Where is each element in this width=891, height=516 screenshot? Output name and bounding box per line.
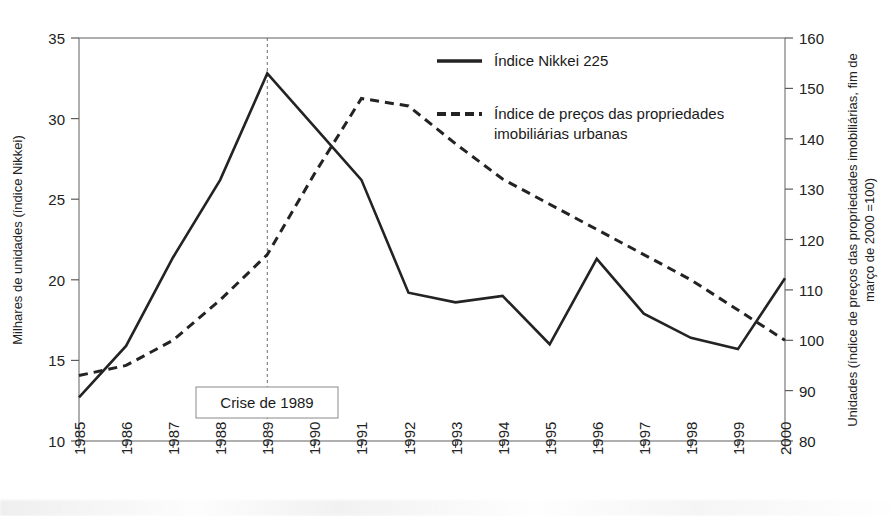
chart-container: 35 30 25 20 15 10 Milhares de unidades (… — [0, 0, 891, 516]
left-tick-label-35: 35 — [48, 30, 65, 47]
x-tick-label-1994: 1994 — [495, 422, 512, 455]
right-axis-ticks — [785, 38, 793, 441]
legend-item-nikkei[interactable]: Índice Nikkei 225 — [437, 52, 608, 69]
left-tick-label-10: 10 — [48, 433, 65, 450]
right-tick-label-80: 80 — [799, 433, 816, 450]
x-tick-label-1993: 1993 — [448, 422, 465, 455]
legend-label-property-price-line2: imobiliárias urbanas — [494, 125, 627, 142]
left-tick-label-30: 30 — [48, 111, 65, 128]
right-tick-label-150: 150 — [799, 80, 824, 97]
x-tick-label-1989: 1989 — [259, 422, 276, 455]
legend-label-property-price-line1: Índice de preços das propriedades — [494, 105, 724, 122]
right-tick-label-100: 100 — [799, 332, 824, 349]
right-axis-title-line2: março de 2000 =100) — [862, 178, 877, 302]
right-tick-label-140: 140 — [799, 131, 824, 148]
x-tick-label-1999: 1999 — [730, 422, 747, 455]
x-tick-label-1987: 1987 — [165, 422, 182, 455]
crisis-annotation-label: Crise de 1989 — [220, 394, 313, 411]
left-axis-ticks — [71, 38, 79, 441]
x-tick-label-1995: 1995 — [542, 422, 559, 455]
x-tick-label-1997: 1997 — [636, 422, 653, 455]
right-axis-title-line1: Unidades (índice de preços das proprieda… — [845, 53, 860, 427]
series-line-nikkei-225 — [79, 73, 785, 397]
x-tick-label-1986: 1986 — [118, 422, 135, 455]
crisis-annotation: Crise de 1989 — [196, 387, 338, 418]
x-axis: 1985 1986 1987 1988 1989 1990 1991 1992 … — [71, 422, 794, 455]
legend-label-nikkei: Índice Nikkei 225 — [494, 52, 608, 69]
left-axis-title: Milhares de unidades (índice Nikkei) — [10, 135, 25, 345]
left-axis: 35 30 25 20 15 10 Milhares de unidades (… — [10, 30, 79, 450]
chart-legend: Índice Nikkei 225 Índice de preços das p… — [437, 52, 724, 142]
x-tick-label-1998: 1998 — [683, 422, 700, 455]
x-tick-label-2000: 2000 — [777, 422, 794, 455]
left-tick-label-20: 20 — [48, 272, 65, 289]
right-axis: 160 150 140 130 120 110 100 90 80 Unidad… — [785, 30, 877, 450]
right-tick-label-90: 90 — [799, 383, 816, 400]
right-tick-label-110: 110 — [799, 282, 823, 299]
right-tick-label-120: 120 — [799, 232, 824, 249]
legend-item-property-price[interactable]: Índice de preços das propriedades imobil… — [437, 105, 724, 142]
x-tick-label-1988: 1988 — [212, 422, 229, 455]
line-chart: 35 30 25 20 15 10 Milhares de unidades (… — [0, 0, 891, 516]
left-tick-label-15: 15 — [48, 352, 65, 369]
x-tick-label-1996: 1996 — [589, 422, 606, 455]
x-axis-ticks — [79, 441, 785, 448]
x-tick-label-1991: 1991 — [353, 422, 370, 455]
x-tick-label-1985: 1985 — [71, 422, 88, 455]
left-tick-label-25: 25 — [48, 191, 65, 208]
right-tick-label-160: 160 — [799, 30, 824, 47]
x-tick-label-1992: 1992 — [401, 422, 418, 455]
right-tick-label-130: 130 — [799, 181, 824, 198]
x-tick-label-1990: 1990 — [306, 422, 323, 455]
